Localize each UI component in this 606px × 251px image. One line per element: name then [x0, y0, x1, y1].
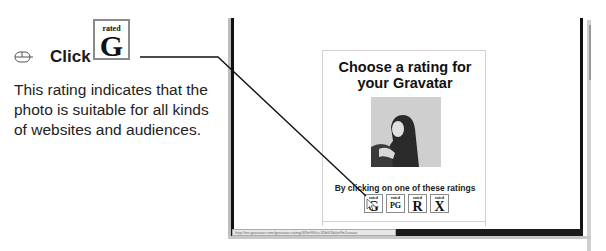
- instruction-panel: Click rated G This rating indicates that…: [0, 0, 230, 251]
- panel-divider: [322, 221, 486, 222]
- browser-frame-right: [580, 18, 583, 235]
- rated-g-badge: rated G: [93, 19, 130, 60]
- instruction-description: This rating indicates that the photo is …: [14, 80, 224, 140]
- avatar: [371, 97, 441, 167]
- rating-x-button[interactable]: rated X: [430, 194, 449, 213]
- rating-big: R: [409, 200, 426, 213]
- mouse-icon: [14, 51, 34, 63]
- click-label: Click: [50, 47, 91, 67]
- rating-big: PG: [387, 200, 404, 212]
- rating-prompt: By clicking on one of these ratings: [323, 183, 487, 193]
- browser-frame-shadow-bottom: [228, 236, 591, 239]
- rating-r-button[interactable]: rated R: [408, 194, 427, 213]
- scrollbar-thumb[interactable]: [589, 25, 591, 80]
- rating-pg-button[interactable]: rated PG: [386, 194, 405, 213]
- panel-title: Choose a rating for your Gravatar: [323, 59, 487, 91]
- status-bar-url: http://en.gravatar.com/gravatar-rating/4…: [232, 229, 396, 236]
- rating-big: X: [431, 200, 448, 213]
- rating-panel: Choose a rating for your Gravatar By cli…: [322, 50, 486, 226]
- mouse-cursor-icon: [366, 198, 376, 211]
- badge-big-text: G: [95, 33, 128, 59]
- browser-frame-left: [231, 18, 234, 235]
- avatar-photo: [371, 97, 441, 167]
- rating-buttons: rated G rated PG rated R rated X: [364, 194, 449, 213]
